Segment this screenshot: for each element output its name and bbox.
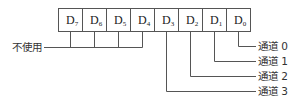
channel-2-lead [191,32,257,77]
channel-labels: 通道 0 通道 1 通道 2 通道 3 [258,40,288,97]
channel-2-label: 通道 2 [258,70,288,82]
channel-0-label: 通道 0 [258,40,288,52]
channel-leads [167,32,257,92]
unused-bracket [44,32,143,48]
unused-label: 不使用 [12,41,42,53]
channel-0-lead [239,32,257,47]
channel-3-label: 通道 3 [258,85,288,97]
register-diagram: D7 D6 D5 D4 D3 D2 D1 D0 不使用 通道 0 通道 1 通道… [0,0,296,105]
channel-1-label: 通道 1 [258,55,288,67]
